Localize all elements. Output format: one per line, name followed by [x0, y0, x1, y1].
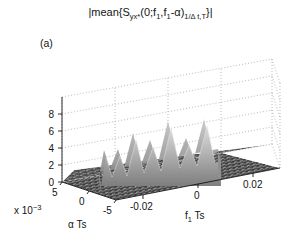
f1-tick-002: 0.02 — [243, 179, 262, 190]
f1-tick-0: 0 — [194, 190, 200, 201]
z-tick-2: 2 — [36, 160, 54, 171]
f1-axis-label: f1 Ts — [185, 210, 205, 225]
alpha-axis-exponent: x 10−3 — [14, 203, 41, 216]
grid-right-wall — [272, 59, 280, 168]
f1-tick-neg002: -0.02 — [130, 201, 153, 212]
alpha-tick-0: 0 — [79, 196, 85, 207]
figure-panel: |mean{Syx*(0;f1,f1-α)1/Δ t,T}| (a) — [0, 0, 301, 244]
z-tick-4: 4 — [36, 143, 54, 154]
z-tick-6: 6 — [36, 126, 54, 137]
alpha-tick-5: 5 — [52, 187, 58, 198]
alpha-axis-label: α Ts — [68, 219, 87, 230]
z-axis-ticks — [58, 114, 62, 182]
alpha-tick-neg5: -5 — [103, 205, 112, 216]
z-tick-8: 8 — [36, 109, 54, 120]
